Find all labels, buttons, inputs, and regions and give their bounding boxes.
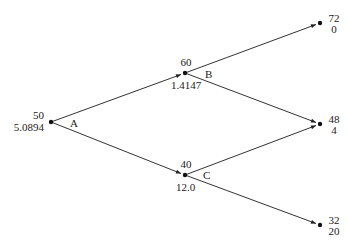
- node-c-name: C: [203, 169, 210, 181]
- edge-c-dd: [185, 175, 316, 224]
- node-b-value: 1.4147: [171, 79, 201, 91]
- node-a-dot: [49, 120, 53, 124]
- edge-a-b: [51, 75, 181, 123]
- node-ud-value: 4: [326, 124, 342, 136]
- edge-c-ud: [185, 126, 316, 176]
- node-ud-dot: [318, 122, 322, 126]
- edge-a-c: [51, 122, 181, 174]
- node-b-dot: [183, 71, 187, 75]
- node-dd-value: 20: [326, 225, 342, 237]
- node-uu-dot: [318, 21, 322, 25]
- node-a-price: 50: [0, 109, 44, 121]
- node-dd-dot: [318, 223, 322, 227]
- node-a-name: A: [70, 117, 78, 129]
- node-b-name: B: [205, 68, 212, 80]
- node-c-price: 40: [176, 158, 196, 170]
- node-b-price: 60: [176, 56, 196, 68]
- node-uu-value: 0: [326, 23, 342, 35]
- node-c-dot: [183, 173, 187, 177]
- node-c-value: 12.0: [176, 181, 195, 193]
- edge-b-uu: [185, 25, 316, 74]
- edge-b-ud: [185, 73, 316, 123]
- node-a-value: 5.0894: [0, 121, 44, 133]
- binomial-tree-diagram: [0, 0, 348, 246]
